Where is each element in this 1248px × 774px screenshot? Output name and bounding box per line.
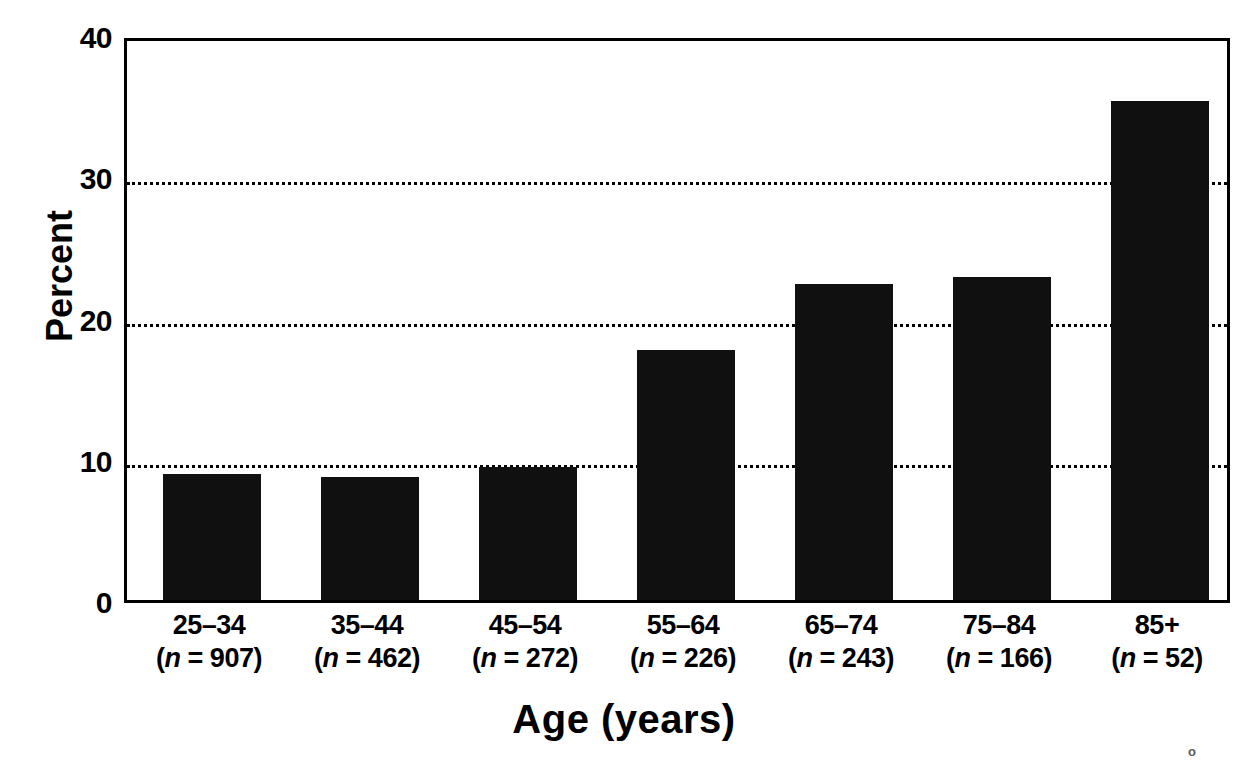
x-axis-label-55-64: 55–64(n = 226) [604,610,762,673]
y-axis-title: Percent [39,136,81,416]
y-axis-tick-0: 0 [96,588,112,618]
bar-series [127,41,1227,600]
bar-75-84 [953,277,1050,600]
x-axis-label-sample-size: (n = 166) [920,643,1078,673]
bar-25-34 [163,474,260,600]
x-axis-title: Age (years) [0,697,1248,742]
x-axis-label-range: 25–34 [130,610,288,640]
x-axis-label-sample-size: (n = 226) [604,643,762,673]
y-axis-tick-40: 40 [80,23,112,53]
x-axis-label-range: 45–54 [446,610,604,640]
x-axis-label-range: 55–64 [604,610,762,640]
y-axis-tick-20: 20 [80,306,112,336]
x-axis-label-45-54: 45–54(n = 272) [446,610,604,673]
x-axis-label-sample-size: (n = 52) [1078,643,1236,673]
bar-65-74 [795,284,892,600]
x-axis-label-range: 35–44 [288,610,446,640]
x-axis-label-85+: 85+(n = 52) [1078,610,1236,673]
chart-figure: 010203040 Percent 25–34(n = 907)35–44(n … [0,0,1248,774]
x-axis-label-sample-size: (n = 272) [446,643,604,673]
x-axis-label-35-44: 35–44(n = 462) [288,610,446,673]
x-axis-tick-labels: 25–34(n = 907)35–44(n = 462)45–54(n = 27… [124,610,1230,680]
bar-85+ [1111,101,1208,600]
x-axis-label-25-34: 25–34(n = 907) [130,610,288,673]
x-axis-label-range: 85+ [1078,610,1236,640]
bar-35-44 [321,477,418,600]
bar-45-54 [479,467,576,600]
x-axis-label-sample-size: (n = 462) [288,643,446,673]
scan-artifact-mark: o [1188,744,1196,759]
plot-area [124,38,1230,603]
y-axis-tick-30: 30 [80,164,112,194]
x-axis-label-65-74: 65–74(n = 243) [762,610,920,673]
x-axis-label-75-84: 75–84(n = 166) [920,610,1078,673]
bar-55-64 [637,350,734,600]
x-axis-label-range: 65–74 [762,610,920,640]
x-axis-label-range: 75–84 [920,610,1078,640]
y-axis-tick-10: 10 [80,447,112,477]
x-axis-label-sample-size: (n = 243) [762,643,920,673]
x-axis-label-sample-size: (n = 907) [130,643,288,673]
